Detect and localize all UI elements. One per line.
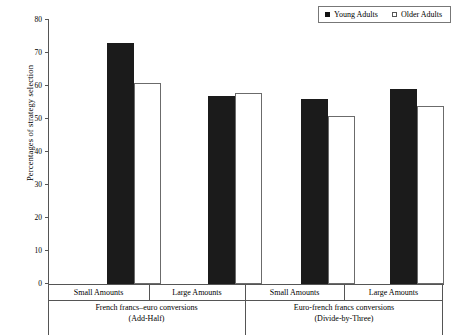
group-label-line1: French francs–euro conversions bbox=[95, 303, 197, 312]
bar-older-adults bbox=[134, 83, 161, 284]
group-label-band: French francs–euro conversions(Add-Half)… bbox=[48, 301, 443, 335]
y-axis-tick-label: 80 bbox=[35, 15, 43, 24]
category-divider bbox=[149, 285, 150, 300]
plot-area: 80706050403020100 bbox=[48, 20, 444, 285]
legend-label-young-adults: Young Adults bbox=[334, 10, 378, 19]
y-axis-title: Percentages of strategy selection bbox=[25, 23, 35, 223]
category-label: Large Amounts bbox=[149, 285, 245, 300]
y-axis-tick-label: 40 bbox=[35, 147, 43, 156]
bar-young-adults bbox=[301, 99, 328, 284]
legend-label-older-adults: Older Adults bbox=[401, 10, 442, 19]
group-label-line2: (Divide-by-Three) bbox=[245, 313, 443, 324]
chart-legend: Young Adults Older Adults bbox=[318, 6, 451, 23]
y-axis-tick-label: 0 bbox=[38, 279, 42, 288]
bar-young-adults bbox=[208, 96, 235, 284]
legend-entry-older-adults: Older Adults bbox=[392, 10, 442, 19]
legend-entry-young-adults: Young Adults bbox=[325, 10, 378, 19]
group-divider bbox=[48, 301, 49, 335]
group-label-line2: (Add-Half) bbox=[48, 313, 245, 324]
y-axis-tick-label: 70 bbox=[35, 48, 43, 57]
bar-older-adults bbox=[328, 116, 355, 284]
y-axis-tick-label: 10 bbox=[35, 246, 43, 255]
category-label: Small Amounts bbox=[48, 285, 149, 300]
y-axis-tick-label: 30 bbox=[35, 180, 43, 189]
category-label-band: Small AmountsLarge AmountsSmall AmountsL… bbox=[48, 285, 443, 301]
group-label-line1: Euro-french francs conversions bbox=[294, 303, 394, 312]
category-divider bbox=[245, 285, 246, 300]
group-divider bbox=[245, 301, 246, 335]
bar-series-container bbox=[49, 20, 444, 284]
category-label: Large Amounts bbox=[344, 285, 443, 300]
category-divider bbox=[344, 285, 345, 300]
open-square-icon bbox=[392, 12, 397, 17]
group-label: French francs–euro conversions(Add-Half) bbox=[48, 302, 245, 324]
bar-chart-figure: Percentages of strategy selection 807060… bbox=[0, 0, 457, 336]
y-axis-tick-label: 20 bbox=[35, 213, 43, 222]
category-label: Small Amounts bbox=[245, 285, 344, 300]
bar-young-adults bbox=[390, 89, 417, 284]
y-axis-tick-label: 50 bbox=[35, 114, 43, 123]
category-divider bbox=[48, 285, 49, 300]
group-label: Euro-french francs conversions(Divide-by… bbox=[245, 302, 443, 324]
bar-older-adults bbox=[417, 106, 444, 284]
filled-square-icon bbox=[325, 12, 330, 17]
y-axis-tick-label: 60 bbox=[35, 81, 43, 90]
bar-young-adults bbox=[107, 43, 134, 284]
bar-older-adults bbox=[235, 93, 262, 284]
